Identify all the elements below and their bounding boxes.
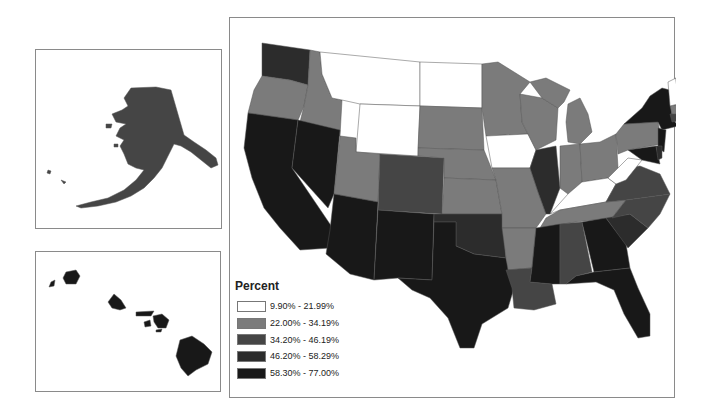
hawaii-inset-frame: [35, 251, 221, 392]
legend-label: 34.20% - 46.19%: [270, 335, 339, 345]
state-ia[interactable]: [486, 134, 536, 168]
legend-title: Percent: [235, 279, 339, 293]
island: [114, 144, 118, 147]
state-nd[interactable]: [420, 62, 482, 108]
state-az[interactable]: [326, 194, 378, 280]
legend-item: 58.30% - 77.00%: [235, 365, 339, 382]
legend-swatch: [237, 301, 266, 312]
legend-swatch: [237, 351, 266, 362]
legend-label: 9.90% - 21.99%: [270, 301, 334, 311]
state-hi[interactable]: [49, 270, 212, 376]
legend-label: 58.30% - 77.00%: [270, 368, 339, 378]
legend-swatch: [237, 318, 266, 329]
legend-item: 34.20% - 46.19%: [235, 331, 339, 348]
hawaii-map: [36, 252, 222, 393]
state-co[interactable]: [378, 154, 444, 214]
alaska-inset-frame: [35, 49, 222, 229]
legend-swatch: [237, 334, 266, 345]
state-ar[interactable]: [502, 228, 536, 270]
state-nm[interactable]: [374, 210, 434, 280]
island: [61, 180, 66, 184]
state-ks[interactable]: [442, 178, 502, 214]
legend-label: 46.20% - 58.29%: [270, 351, 339, 361]
island: [47, 170, 51, 174]
legend-label: 22.00% - 34.19%: [270, 318, 339, 328]
state-wy[interactable]: [356, 104, 420, 156]
state-or[interactable]: [248, 76, 308, 120]
legend-item: 46.20% - 58.29%: [235, 348, 339, 365]
state-mt[interactable]: [320, 52, 420, 106]
state-sd[interactable]: [418, 106, 484, 150]
legend-item: 9.90% - 21.99%: [235, 298, 339, 315]
island: [106, 124, 112, 128]
legend-swatch: [237, 368, 266, 379]
alaska-map: [36, 50, 223, 230]
legend-item: 22.00% - 34.19%: [235, 315, 339, 332]
legend: Percent 9.90% - 21.99% 22.00% - 34.19% 3…: [235, 279, 339, 381]
state-fl[interactable]: [566, 268, 650, 338]
state-ak[interactable]: [76, 87, 218, 208]
